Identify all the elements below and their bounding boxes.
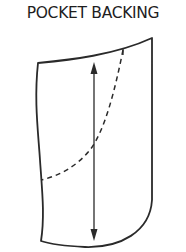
pattern-piece-diagram <box>0 0 186 252</box>
arrow-head-up-icon <box>91 62 98 74</box>
dashed-stitch-line <box>41 50 123 180</box>
arrow-head-down-icon <box>91 229 98 241</box>
